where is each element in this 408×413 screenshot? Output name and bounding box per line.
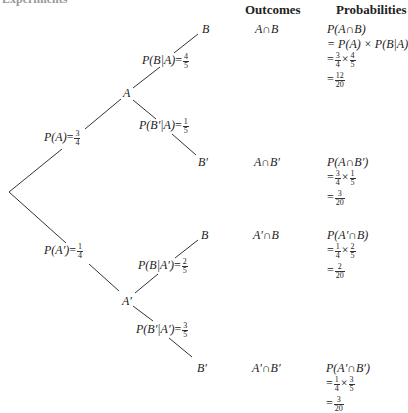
probability-calc-aprime-and-bprime: P(A′∩B′) =14×35 =320 <box>326 361 370 413</box>
branch-root-a-prime <box>9 192 66 243</box>
branch-aprime-b-upper <box>175 240 198 258</box>
label-p-b-given-aprime: P(B|A′)=25 <box>138 258 189 275</box>
label-p-a: P(A)=34 <box>44 130 81 147</box>
outcome-a-and-b: A∩B <box>255 22 278 37</box>
node-bprime-upper: B′ <box>198 155 208 170</box>
outcome-aprime-and-bprime: A′∩B′ <box>252 361 281 376</box>
branch-a-b-upper <box>174 34 198 53</box>
node-a-prime: A′ <box>122 294 132 309</box>
outcome-a-and-bprime: A∩B′ <box>254 155 280 170</box>
probability-calc-a-and-bprime: P(A∩B′) =34×15 =320 <box>327 155 368 207</box>
node-bprime-lower: B′ <box>197 361 207 376</box>
branch-aprime-bprime-upper <box>133 306 153 321</box>
branch-aprime-bprime-lower <box>169 338 192 357</box>
probability-calc-aprime-and-b: P(A′∩B) =14×25 =220 <box>327 228 368 280</box>
branch-a-bprime-upper <box>133 100 156 119</box>
branch-root-a-upper <box>85 99 121 129</box>
label-p-b-given-a: P(B|A)=45 <box>142 53 190 70</box>
label-p-a-prime: P(A′)=14 <box>44 243 84 260</box>
label-p-bprime-given-aprime: P(B′|A′)=35 <box>136 322 189 339</box>
outcome-aprime-and-b: A′∩B <box>253 228 279 243</box>
node-b-upper: B <box>202 22 209 37</box>
label-p-bprime-given-a: P(B′|A)=15 <box>139 118 190 135</box>
branch-root-a <box>9 149 62 192</box>
branch-a-bprime-lower <box>172 134 196 155</box>
node-b-lower: B <box>201 228 208 243</box>
node-a: A <box>123 86 130 101</box>
branch-root-a-prime-lower <box>89 264 119 291</box>
branch-aprime-b-lower <box>135 274 158 293</box>
probability-calc-a-and-b: P(A∩B) = P(A) × P(B|A) =34×45 =1220 <box>327 22 408 89</box>
branch-a-b-lower <box>133 67 160 88</box>
